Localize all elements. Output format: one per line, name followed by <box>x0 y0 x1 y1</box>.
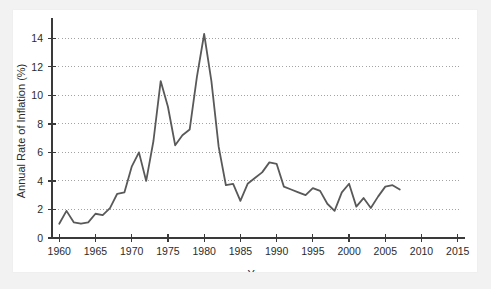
x-tick-label-2005: 2005 <box>374 245 398 257</box>
x-axis-title: Year <box>247 268 270 272</box>
y-tick-label-0: 0 <box>37 232 43 244</box>
y-tick-label-10: 10 <box>31 89 43 101</box>
x-tick-label-2000: 2000 <box>337 245 361 257</box>
data-series-lines <box>59 34 400 224</box>
data-series-0 <box>59 34 400 224</box>
x-tick-label-1960: 1960 <box>48 245 72 257</box>
x-tick-labels: 1960196519701975198019851990199520002005… <box>48 245 470 257</box>
y-tick-label-2: 2 <box>37 203 43 215</box>
figure-root: 1960196519701975198019851990199520002005… <box>0 0 491 289</box>
x-tick-label-1975: 1975 <box>156 245 180 257</box>
y-tick-label-4: 4 <box>37 175 43 187</box>
x-tick-label-1965: 1965 <box>84 245 108 257</box>
x-tick-label-2010: 2010 <box>410 245 434 257</box>
y-tick-label-12: 12 <box>31 61 43 73</box>
grid-lines <box>52 38 461 209</box>
x-axis <box>52 234 465 242</box>
y-axis-title: Annual Rate of Inflation (%) <box>15 64 27 199</box>
x-tick-label-1995: 1995 <box>301 245 325 257</box>
inflation-line-chart: 1960196519701975198019851990199520002005… <box>13 10 477 272</box>
y-tick-label-6: 6 <box>37 146 43 158</box>
y-tick-label-8: 8 <box>37 118 43 130</box>
x-tick-label-1970: 1970 <box>120 245 144 257</box>
x-tick-label-1985: 1985 <box>229 245 253 257</box>
y-tick-label-14: 14 <box>31 32 43 44</box>
y-tick-labels: 02468101214 <box>31 32 43 244</box>
y-axis <box>48 18 56 238</box>
x-tick-label-2015: 2015 <box>446 245 470 257</box>
chart-panel: 1960196519701975198019851990199520002005… <box>13 10 477 272</box>
x-tick-label-1980: 1980 <box>192 245 216 257</box>
x-tick-label-1990: 1990 <box>265 245 289 257</box>
